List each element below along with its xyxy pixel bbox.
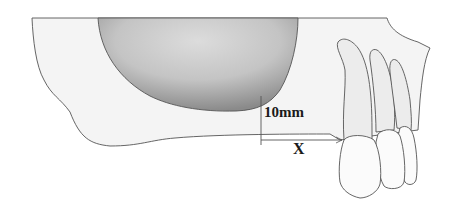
- horizontal-measure-label: X: [293, 140, 305, 158]
- vertical-measure-label: 10mm: [264, 104, 304, 121]
- central-incisor-crown: [339, 136, 381, 199]
- maxilla-diagram: [0, 0, 451, 212]
